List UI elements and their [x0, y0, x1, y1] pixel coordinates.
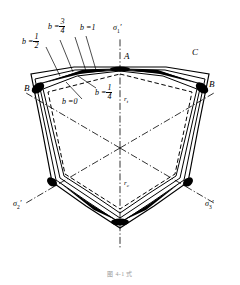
label-b-three-quarters-fraction: 34	[59, 18, 65, 36]
axis-label-sigma3: σ3′	[205, 200, 213, 210]
leader-b-quarter	[78, 76, 96, 88]
rt-subscript: t	[127, 99, 128, 104]
leader-b-one	[75, 37, 86, 71]
label-b-three-quarters-lhs: b =	[48, 23, 59, 31]
point-label-A: A	[124, 52, 130, 61]
sigma2-prime: ′	[20, 199, 22, 208]
label-b-one-quarter-lhs: b =	[95, 89, 106, 97]
axis-label-sigma2: σ2′	[13, 200, 21, 210]
label-b-one-value: 1	[91, 24, 95, 32]
label-b-one-half-lhs: b =	[22, 38, 33, 46]
label-b-zero-value: 0	[73, 98, 77, 106]
axis-label-sigma1: σ1′	[113, 24, 121, 34]
rc-subscript: c	[127, 183, 129, 188]
axis-sigma2	[26, 148, 120, 203]
figure-container: b =12 b =34 b = 1 b =14 b = 0 σ1′ σ2′ σ3…	[0, 0, 240, 285]
sigma1-prime: ′	[120, 23, 122, 32]
axis-sigma3	[120, 148, 214, 203]
label-b-one-lhs: b =	[80, 24, 91, 32]
label-b-one-quarter-fraction: 14	[106, 84, 112, 102]
label-b-zero-lhs: b =	[62, 98, 73, 106]
sigma3-prime: ′	[212, 199, 214, 208]
label-b-zero: b = 0	[62, 98, 77, 106]
label-b-one: b = 1	[80, 24, 95, 32]
point-label-B-right: B	[209, 80, 215, 89]
point-label-C: C	[192, 48, 198, 57]
label-b-one-quarter: b =14	[95, 84, 112, 102]
figure-caption: 图 4-1 式	[0, 269, 240, 278]
label-b-one-half-fraction: 12	[33, 33, 39, 51]
leader-b-threequart	[60, 40, 73, 72]
label-b-three-quarters: b =34	[48, 18, 65, 36]
label-b-one-half: b =12	[22, 33, 39, 51]
radius-label-rc: rc	[124, 180, 129, 188]
point-label-B-left: B	[24, 84, 30, 93]
leader-b-one-2	[86, 36, 96, 70]
radius-label-rt: rt	[124, 96, 128, 104]
